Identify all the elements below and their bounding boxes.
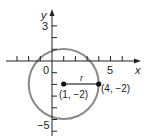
y-axis-arrow-icon [50, 9, 55, 16]
diagram-canvas: y 3 0 5 x −5 r (1, −2) (4, −2) [0, 0, 147, 139]
x-tick-label-5: 5 [107, 64, 113, 76]
center-point-label: (1, −2) [59, 89, 88, 100]
coordinate-plane: y 3 0 5 x −5 r (1, −2) (4, −2) [0, 0, 147, 139]
center-point [61, 81, 66, 86]
x-ticks [17, 56, 122, 61]
y-tick-label-minus5: −5 [37, 119, 50, 131]
radius-label: r [80, 73, 84, 83]
y-ticks [52, 26, 57, 131]
y-tick-label-3: 3 [42, 20, 48, 32]
x-axis-label: x [134, 64, 141, 76]
x-axis-arrow-icon [134, 59, 141, 64]
circle-point-label: (4, −2) [101, 83, 130, 94]
x-tick-label-0: 0 [43, 64, 49, 76]
